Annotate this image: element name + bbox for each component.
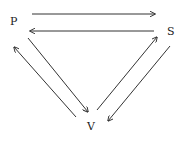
edge-p-to-v [28,38,88,112]
edge-s-to-v [108,46,170,121]
edge-v-to-s [97,37,157,110]
node-v-label: V [87,121,95,132]
node-s-label: S [167,26,175,37]
node-p-label: P [10,16,17,27]
edge-v-to-p [14,47,76,117]
